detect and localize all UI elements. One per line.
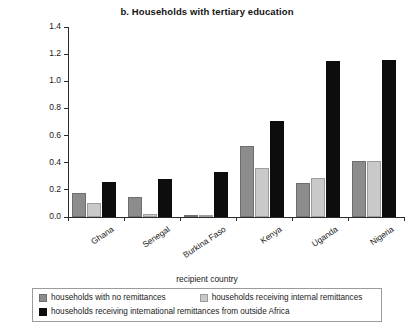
x-axis-tick-mark [180,217,181,221]
chart-legend: households with no remittances household… [32,288,382,322]
x-axis-tick-mark [68,217,69,221]
bar-ghana-series-0 [72,193,86,217]
legend-entry-internal-remittances: households receiving internal remittance… [200,293,363,302]
legend-swatch-icon-international-remittances [39,308,47,316]
y-axis-tick-label: 0.6 [49,130,61,140]
bar-senegal-series-0 [128,197,142,217]
bar-ghana-series-1 [87,203,101,217]
x-axis-tick-mark [124,217,125,221]
y-axis-tick-label: 1.4 [49,21,61,31]
chart-title: b. Households with tertiary education [0,6,414,17]
x-axis-title: recipient country [0,274,414,284]
plot-area [68,27,404,217]
legend-label-no-remittances: households with no remittances [51,293,166,302]
legend-swatch-icon-no-remittances [39,294,47,302]
x-axis-tick-mark [348,217,349,221]
legend-label-international-remittances: households receiving international remit… [51,307,289,316]
y-axis-tick-label: 0.0 [49,211,61,221]
y-axis-tick-label: 1.2 [49,48,61,58]
bar-uganda-series-0 [296,183,310,217]
bar-nigeria-series-1 [367,161,381,217]
bar-senegal-series-2 [158,179,172,217]
y-axis-tick-label: 0.4 [49,157,61,167]
x-axis-tick-mark [404,217,405,221]
bar-uganda-series-1 [311,178,325,217]
bar-nigeria-series-0 [352,161,366,217]
legend-entry-international-remittances: households receiving international remit… [39,307,289,316]
legend-label-internal-remittances: households receiving internal remittance… [212,293,363,302]
bar-burkina-faso-series-1 [199,215,213,217]
y-axis-tick-label: 1.0 [49,75,61,85]
bar-senegal-series-1 [143,214,157,217]
bar-kenya-series-2 [270,121,284,217]
bar-kenya-series-0 [240,146,254,217]
bar-burkina-faso-series-2 [214,172,228,217]
bar-uganda-series-2 [326,61,340,217]
legend-row-primary: households with no remittances household… [39,293,372,302]
y-axis-tick-label: 0.8 [49,102,61,112]
x-axis-tick-mark [236,217,237,221]
y-axis-tick-label: 0.2 [49,184,61,194]
legend-row-secondary: households receiving international remit… [39,307,299,316]
bar-burkina-faso-series-0 [184,215,198,217]
legend-entry-no-remittances: households with no remittances [39,293,166,302]
x-axis-tick-mark [292,217,293,221]
bar-kenya-series-1 [255,168,269,217]
bar-ghana-series-2 [102,182,116,217]
legend-swatch-icon-internal-remittances [200,294,208,302]
chart-container: b. Households with tertiary education av… [0,0,414,328]
bar-nigeria-series-2 [382,60,396,217]
